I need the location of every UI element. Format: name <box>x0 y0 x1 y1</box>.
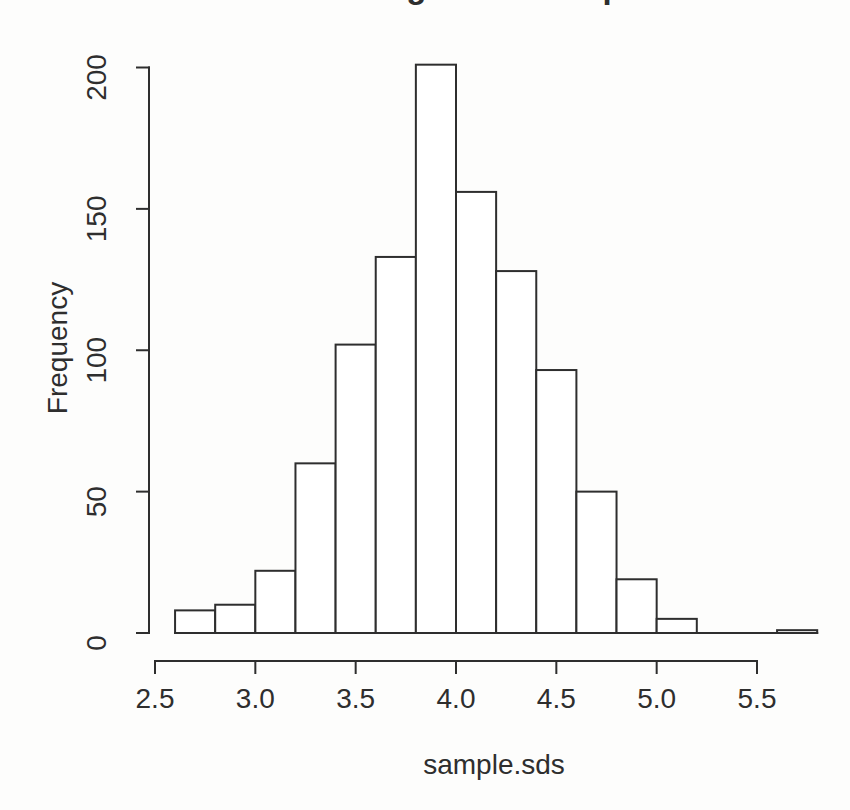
histogram-chart: 0501001502002.53.03.54.04.55.05.5 <box>0 0 850 810</box>
histogram-figure: Histogram of sample.sds 0501001502002.53… <box>0 0 850 810</box>
histogram-bar <box>536 370 576 633</box>
x-axis-tick-label: 3.5 <box>336 683 375 714</box>
x-axis-tick-label: 5.5 <box>738 683 777 714</box>
y-axis-tick-label: 150 <box>81 196 112 243</box>
x-axis-tick-label: 4.0 <box>437 683 476 714</box>
histogram-bar <box>295 463 335 633</box>
histogram-bar <box>617 579 657 633</box>
y-axis-tick-label: 0 <box>81 635 112 651</box>
histogram-bar <box>416 65 456 633</box>
x-axis-tick-label: 3.0 <box>236 683 275 714</box>
y-axis-tick-label: 200 <box>81 54 112 101</box>
x-axis-label: sample.sds <box>423 749 565 781</box>
histogram-bar <box>376 257 416 633</box>
y-axis-label: Frequency <box>42 282 74 414</box>
histogram-bar <box>657 619 697 633</box>
histogram-bar <box>576 492 616 633</box>
y-axis-tick-label: 50 <box>81 486 112 517</box>
histogram-bar <box>175 610 215 633</box>
x-axis-tick-label: 5.0 <box>637 683 676 714</box>
histogram-bar <box>255 571 295 633</box>
histogram-bar <box>215 605 255 633</box>
histogram-bar <box>496 271 536 633</box>
histogram-bar <box>336 345 376 633</box>
histogram-bar <box>456 192 496 633</box>
histogram-bar <box>777 630 817 633</box>
x-axis-tick-label: 4.5 <box>537 683 576 714</box>
y-axis-tick-label: 100 <box>81 337 112 384</box>
x-axis-tick-label: 2.5 <box>136 683 175 714</box>
